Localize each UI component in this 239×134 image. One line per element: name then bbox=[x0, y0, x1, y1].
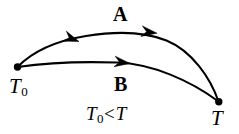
path-label-a: A bbox=[113, 4, 127, 24]
node-marker-end bbox=[215, 98, 222, 105]
inequality-left-symbol: T bbox=[86, 103, 97, 124]
diagram-canvas: A B T0 T T0<T bbox=[0, 0, 239, 134]
path-label-b: B bbox=[114, 74, 127, 94]
inequality-right-symbol: T bbox=[116, 103, 127, 124]
node-label-end: T bbox=[211, 108, 223, 129]
node-label-end-symbol: T bbox=[211, 106, 223, 130]
node-label-start: T0 bbox=[9, 76, 27, 97]
inequality-relation-operator: < bbox=[103, 103, 116, 124]
node-label-start-symbol: T bbox=[9, 74, 21, 98]
inequality-annotation: T0<T bbox=[86, 104, 126, 123]
node-marker-start bbox=[14, 63, 21, 70]
inequality-left-subscript: 0 bbox=[97, 111, 104, 126]
arrowhead-path-a-left bbox=[63, 31, 81, 46]
node-label-start-subscript: 0 bbox=[21, 84, 28, 99]
